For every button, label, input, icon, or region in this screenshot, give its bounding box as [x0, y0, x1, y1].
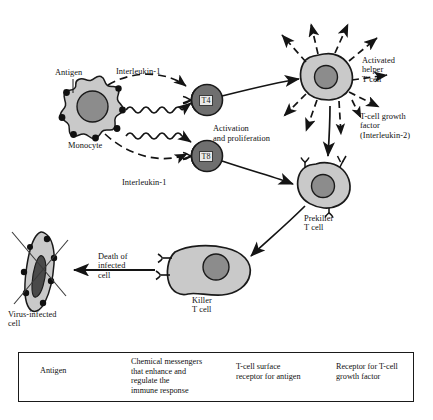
killer-t-cell-label: Killer T cell — [192, 296, 212, 315]
antigen-label: Antigen — [55, 68, 82, 78]
monocyte-label: Monocyte — [68, 141, 102, 151]
interleukin1-bottom-label: Interleukin-1 — [122, 178, 166, 188]
t-cell-growth-factor-label: T-cell growth factor (Interleukin-2) — [360, 112, 410, 140]
t4-to-activated-helper-arrow — [222, 79, 299, 96]
t4-cell-label: T4 — [199, 95, 213, 106]
interleukin1-arrow-bottom — [105, 134, 187, 159]
prekiller-to-killer-arrow — [251, 206, 305, 256]
t8-cell-label: T8 — [199, 151, 213, 162]
prekiller-t-cell — [298, 163, 350, 208]
t8-to-prekiller-arrow — [222, 161, 293, 184]
interleukin1-top-label: Interleukin-1 — [116, 67, 160, 77]
prekiller-t-cell-label: Prekiller T cell — [304, 214, 333, 233]
legend-item-surface-receptor-text: T-cell surface receptor for antigen — [236, 362, 301, 381]
killer-t-cell — [167, 246, 250, 296]
monocyte-cell — [60, 76, 123, 139]
legend-item-growth-factor-receptor-text: Receptor for T-cell growth factor — [336, 362, 398, 381]
death-of-infected-cell-label: Death of infected cell — [98, 252, 127, 280]
legend-item-antigen-text: Antigen — [40, 366, 66, 376]
immune-response-diagram: Antigen Monocyte Interleukin-1 Interleuk… — [0, 0, 433, 420]
activated-helper-t-cell — [301, 54, 353, 100]
virus-infected-cell-label: Virus-infected cell — [8, 310, 57, 329]
virus-infected-cell — [25, 232, 54, 311]
legend-item-chemical-messengers-text: Chemical messengers that enhance and reg… — [131, 357, 202, 395]
activated-helper-t-cell-label: Activated helper T cell — [362, 56, 395, 84]
t4-surface-receptor-icon — [183, 97, 191, 104]
antigen-presentation-signal-t4 — [126, 107, 182, 113]
activation-proliferation-label: Activation and proliferation — [213, 124, 270, 143]
antigen-presentation-signal-t8 — [126, 133, 182, 139]
helper-to-prekiller-arrow — [328, 106, 330, 156]
